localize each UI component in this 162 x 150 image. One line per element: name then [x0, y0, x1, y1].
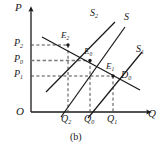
curve-s1 [88, 52, 142, 118]
curve-label-d0: D0 [121, 70, 131, 80]
x-tick-q2: Q2 [61, 114, 71, 124]
origin-label: O [16, 106, 24, 117]
point-label-e2: E2 [61, 31, 69, 40]
x-axis-label: Q [148, 108, 156, 119]
point-e2 [66, 43, 69, 46]
x-tick-q1: Q1 [107, 114, 117, 124]
curve-label-s2: S2 [90, 8, 98, 18]
figure-panel: P Q O P2 P0 P1 Q2 Q0 Q1 S2 S S1 D0 E2 E0… [0, 0, 162, 150]
point-e0 [88, 59, 91, 62]
figure-caption: (b) [70, 131, 82, 142]
y-axis-label: P [15, 2, 22, 13]
curve-s [61, 27, 125, 117]
curve-d0 [42, 37, 140, 90]
curve-label-s: S [124, 12, 129, 22]
x-tick-q0: Q0 [84, 114, 94, 124]
y-tick-p0: P0 [14, 54, 23, 64]
y-tick-p1: P1 [14, 69, 23, 79]
point-label-e1: E1 [106, 62, 114, 71]
y-tick-p2: P2 [14, 38, 23, 48]
point-e1 [111, 74, 114, 77]
curve-label-s1: S1 [136, 44, 144, 54]
curve-s2 [46, 22, 115, 92]
supply-demand-chart [0, 0, 162, 150]
point-label-e0: E0 [84, 47, 92, 56]
